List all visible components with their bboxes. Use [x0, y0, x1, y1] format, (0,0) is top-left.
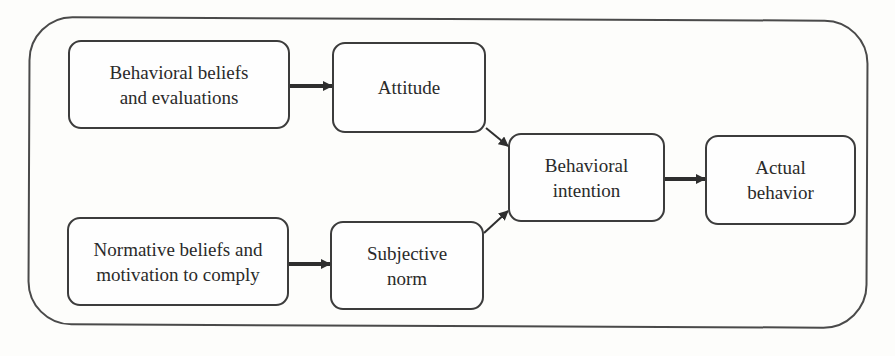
node-label-line: norm: [367, 266, 447, 291]
node-subjective-norm: Subjective norm: [330, 221, 484, 310]
node-label-line: Normative beliefs and: [94, 237, 263, 262]
node-label-line: Behavioral beliefs: [110, 60, 249, 85]
node-label-line: behavior: [747, 180, 813, 205]
node-attitude: Attitude: [332, 42, 486, 133]
node-label-line: Attitude: [378, 75, 440, 100]
node-label-line: Actual: [747, 155, 813, 180]
node-label-line: and evaluations: [110, 85, 249, 110]
node-label-line: motivation to comply: [94, 262, 263, 287]
node-normative-beliefs: Normative beliefs and motivation to comp…: [67, 217, 289, 306]
node-label-line: intention: [545, 178, 628, 203]
node-label-line: Subjective: [367, 241, 447, 266]
node-behavioral-intention: Behavioral intention: [508, 133, 665, 222]
node-behavioral-beliefs: Behavioral beliefs and evaluations: [68, 40, 290, 129]
node-actual-behavior: Actual behavior: [705, 135, 856, 225]
node-label-line: Behavioral: [545, 153, 628, 178]
